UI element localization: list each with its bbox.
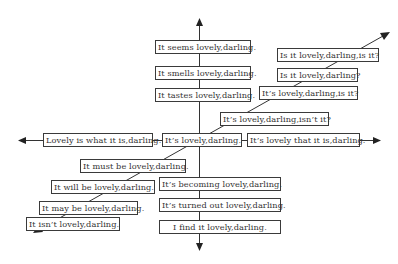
box-it-seems: It seems lovely,darling. (155, 40, 251, 54)
arrow-left-icon (18, 137, 26, 144)
box-lovely-is-what-it-is: Lovely is what it is,darling. (43, 133, 153, 147)
box-lovely-that-it-is: It’s lovely that it is,darling. (247, 133, 360, 147)
box-it-tastes: It tastes lovely,darling. (155, 88, 251, 102)
box-will-be: It will be lovely,darling. (51, 180, 155, 194)
box-find-it: I find it lovely,darling. (159, 220, 281, 234)
box-is-it-lovely: Is it lovely,darling? (277, 68, 358, 82)
box-isnt: It isn’t lovely,darling. (26, 217, 120, 231)
box-may-be: It may be lovely,darling. (39, 201, 138, 215)
box-must-be: It must be lovely,darling. (80, 159, 186, 173)
arrow-down-icon (196, 243, 203, 251)
box-becoming: It’s becoming lovely,darling. (159, 177, 281, 191)
box-turned-out: It’s turned out lovely,darling. (159, 198, 281, 212)
box-its-lovely-isnt-it: It’s lovely,darling,isn’t it? (220, 112, 329, 126)
box-is-it-lovely-is-it: Is it lovely,darling,is it? (277, 48, 379, 62)
box-center-its-lovely: It’s lovely,darling. (162, 133, 242, 147)
arrow-up-icon (196, 18, 203, 26)
arrow-right-icon (373, 137, 381, 144)
box-its-lovely-is-it: It’s lovely,darling,is it? (259, 86, 358, 100)
arrow-upper-right-icon (380, 32, 390, 40)
box-it-smells: It smells lovely,darling. (155, 66, 251, 80)
